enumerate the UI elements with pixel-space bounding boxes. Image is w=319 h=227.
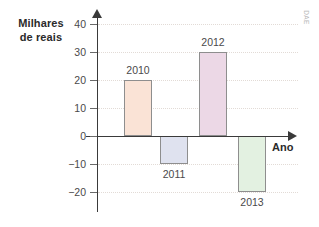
- bar-label-2010: 2010: [115, 64, 161, 76]
- y-tick-label-10: 10: [52, 103, 86, 113]
- y-tick-20: [90, 80, 97, 81]
- x-axis-title: Ano: [272, 141, 293, 153]
- bar-2010: [124, 80, 152, 136]
- gridline-minus-10: [98, 164, 298, 165]
- y-tick-0: [90, 136, 97, 137]
- y-tick-label-minus-10: −10: [52, 159, 86, 169]
- gridline-minus-20: [98, 192, 298, 193]
- y-tick-40: [90, 24, 97, 25]
- bar-chart: Milhares de reais 2010 2011 2012 2013 An…: [0, 0, 319, 227]
- gridline-40: [98, 24, 298, 25]
- bar-2013: [238, 136, 266, 192]
- gridline-30: [98, 52, 298, 53]
- y-tick-30: [90, 52, 97, 53]
- y-tick-label-20: 20: [52, 75, 86, 85]
- y-axis-arrow-icon: [92, 9, 102, 18]
- bar-2011: [160, 136, 188, 164]
- watermark-label: DAE: [303, 10, 310, 25]
- y-tick-label-0: 0: [52, 131, 86, 141]
- y-tick-10: [90, 108, 97, 109]
- y-tick-label-30: 30: [52, 47, 86, 57]
- bar-2012: [199, 52, 227, 136]
- y-tick-minus-20: [90, 192, 97, 193]
- plot-area: 2010 2011 2012 2013 Ano 40 30 20 10 0 −1…: [0, 0, 319, 227]
- bar-label-2013: 2013: [229, 196, 275, 208]
- bar-label-2012: 2012: [190, 36, 236, 48]
- y-tick-minus-10: [90, 164, 97, 165]
- bar-label-2011: 2011: [151, 168, 197, 180]
- y-tick-label-40: 40: [52, 19, 86, 29]
- x-axis-line: [86, 136, 291, 137]
- y-axis-line: [97, 16, 98, 212]
- y-tick-label-minus-20: −20: [52, 187, 86, 197]
- x-axis-arrow-icon: [288, 131, 297, 141]
